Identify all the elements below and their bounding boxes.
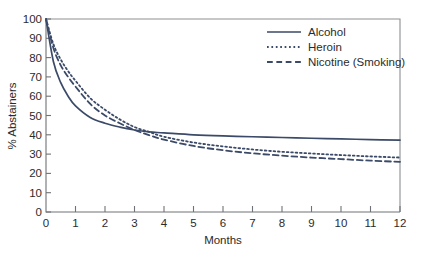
y-tick-label: 40 [29, 129, 42, 141]
x-tick-label: 8 [279, 217, 285, 229]
plot-frame [46, 19, 400, 212]
legend-label: Nicotine (Smoking) [308, 56, 405, 68]
x-tick-label: 2 [102, 217, 108, 229]
x-tick-label: 1 [72, 217, 78, 229]
x-axis-ticks [76, 206, 401, 212]
y-tick-label: 10 [29, 187, 42, 199]
x-axis-title: Months [204, 234, 242, 246]
chart-legend: AlcoholHeroinNicotine (Smoking) [267, 26, 405, 68]
chart-canvas: 0102030405060708090100 0123456789101112 … [0, 0, 421, 254]
series-line-nicotine-smoking [46, 19, 400, 162]
y-tick-label: 80 [29, 52, 42, 64]
series-line-alcohol [46, 19, 400, 140]
y-tick-label: 0 [36, 206, 42, 218]
y-tick-label: 30 [29, 148, 42, 160]
x-tick-label: 10 [335, 217, 348, 229]
y-tick-label: 100 [23, 13, 42, 25]
plot-axes [46, 19, 400, 212]
y-axis-tick-labels: 0102030405060708090100 [23, 13, 42, 218]
y-tick-label: 70 [29, 71, 42, 83]
x-tick-label: 9 [308, 217, 314, 229]
abstainers-line-chart: 0102030405060708090100 0123456789101112 … [0, 0, 421, 254]
x-tick-label: 5 [190, 217, 196, 229]
x-tick-label: 4 [161, 217, 168, 229]
x-tick-label: 0 [43, 217, 49, 229]
y-tick-label: 90 [29, 32, 42, 44]
y-axis-title: % Abstainers [6, 82, 18, 149]
y-tick-label: 60 [29, 90, 42, 102]
legend-label: Heroin [308, 41, 342, 53]
y-tick-label: 20 [29, 167, 42, 179]
x-tick-label: 7 [249, 217, 255, 229]
x-tick-label: 6 [220, 217, 226, 229]
x-tick-label: 11 [365, 217, 377, 229]
x-tick-label: 12 [394, 217, 407, 229]
legend-label: Alcohol [308, 26, 346, 38]
y-tick-label: 50 [29, 110, 42, 122]
x-tick-label: 3 [131, 217, 137, 229]
x-axis-tick-labels: 0123456789101112 [43, 217, 407, 229]
series-lines [46, 19, 400, 162]
